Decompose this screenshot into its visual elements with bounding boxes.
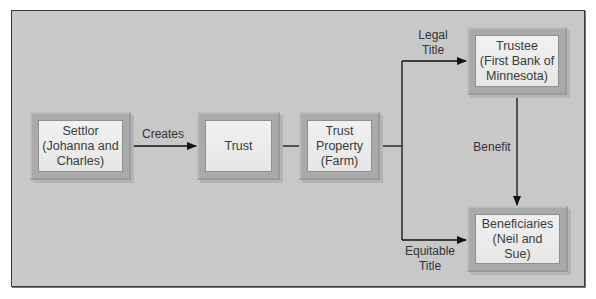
label-creates: Creates [136, 127, 190, 142]
beneficiaries-line-1: Beneficiaries [482, 217, 554, 232]
label-benefit: Benefit [469, 140, 515, 155]
beneficiaries-line-2: (Neil and [482, 232, 554, 247]
label-legal-title: Legal Title [410, 28, 456, 58]
settlor-line-3: Charles) [42, 154, 118, 169]
node-beneficiaries: Beneficiaries (Neil and Sue) [467, 206, 568, 272]
settlor-line-2: (Johanna and [42, 139, 118, 154]
trust-property-line-2: Property [316, 139, 363, 154]
trustee-line-3: Minnesota) [480, 69, 554, 84]
trust-label: Trust [224, 139, 252, 154]
beneficiaries-line-3: Sue) [482, 247, 554, 262]
node-trustee: Trustee (First Bank of Minnesota) [467, 27, 567, 95]
trust-property-line-1: Trust [316, 124, 363, 139]
label-equitable-title: Equitable Title [398, 244, 462, 274]
node-settlor: Settlor (Johanna and Charles) [30, 112, 131, 180]
trustee-line-1: Trustee [480, 39, 554, 54]
node-trust: Trust [197, 112, 280, 180]
settlor-line-1: Settlor [42, 124, 118, 139]
node-trust-property: Trust Property (Farm) [299, 112, 380, 180]
trust-property-line-3: (Farm) [316, 154, 363, 169]
trustee-line-2: (First Bank of [480, 54, 554, 69]
